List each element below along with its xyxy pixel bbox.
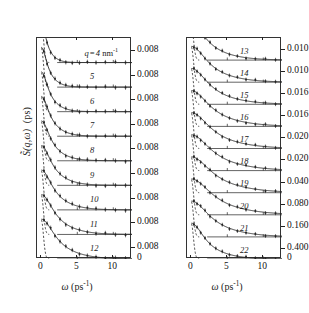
data-point-marker	[275, 212, 277, 214]
data-point-marker	[46, 42, 48, 44]
x-tick-label: 0	[180, 261, 200, 271]
data-point-marker	[255, 144, 257, 146]
curve-label-q-22: 22	[240, 245, 249, 255]
y-axis-tick	[131, 99, 135, 100]
data-point-marker	[46, 199, 48, 201]
data-point-marker	[229, 117, 231, 119]
data-point-marker	[229, 228, 231, 230]
curve-label-q-10: 10	[90, 194, 99, 204]
y-axis-tick	[131, 198, 135, 199]
data-point-marker	[215, 47, 217, 49]
data-point-marker	[229, 95, 231, 97]
data-point-marker	[71, 249, 73, 251]
data-point-marker	[65, 177, 67, 179]
y-tick-label: 0.008	[137, 167, 158, 177]
data-point-marker	[54, 167, 56, 169]
data-point-marker	[196, 71, 198, 73]
data-point-marker	[43, 98, 45, 100]
data-point-marker	[193, 156, 195, 158]
curve-label-q-20: 20	[240, 201, 249, 211]
data-point-marker	[255, 188, 257, 190]
y-axis-tick	[281, 93, 285, 94]
data-point-marker	[196, 48, 198, 50]
data-point-marker	[65, 155, 67, 157]
data-point-marker	[215, 196, 217, 198]
y-tick-label: 0.010	[287, 65, 308, 75]
data-point-marker	[245, 256, 247, 258]
data-point-marker	[43, 170, 45, 172]
data-point-marker	[196, 114, 198, 116]
curve-label-q-4: q = 4 nm-1	[84, 47, 118, 58]
spectrum-curve	[41, 218, 132, 259]
data-point-marker	[229, 139, 231, 141]
data-point-marker	[95, 208, 97, 210]
y-axis-tick	[131, 75, 135, 76]
data-point-marker	[237, 255, 239, 257]
data-point-marker	[59, 59, 61, 61]
data-point-marker	[209, 105, 211, 107]
model-fit-line	[191, 223, 282, 259]
resolution-function-dashed-line	[191, 47, 199, 82]
data-point-marker	[46, 84, 48, 86]
y-axis-tick	[281, 226, 285, 227]
data-point-marker	[50, 205, 52, 207]
data-point-marker	[215, 247, 217, 249]
spectrum-curve	[41, 168, 132, 212]
x-tick-label: 10	[102, 261, 122, 271]
data-point-marker	[265, 146, 267, 148]
resolution-function-dashed-line	[191, 158, 199, 193]
y-axis-label: S̃(q,ω) (ps)	[21, 62, 32, 202]
data-point-marker	[215, 175, 217, 177]
y-tick-label: 0.008	[137, 192, 158, 202]
x-tick-label: 5	[216, 261, 236, 271]
y-tick-label: 0.040	[287, 176, 308, 186]
y-axis-label-symbol: S̃	[21, 151, 32, 156]
data-point-marker	[215, 88, 217, 90]
data-point-marker	[229, 204, 231, 206]
left-panel-curves	[37, 38, 132, 259]
spectrum-curve	[191, 222, 282, 259]
data-point-marker	[193, 112, 195, 114]
x-tick-label: 10	[252, 261, 272, 271]
x-axis-label: ω (ps-1)	[212, 280, 243, 292]
data-point-marker	[204, 165, 206, 167]
data-point-marker	[204, 122, 206, 124]
resolution-function-dashed-line	[191, 136, 199, 171]
data-point-marker	[200, 205, 202, 207]
spectrum-curve	[41, 145, 132, 188]
data-point-marker	[265, 123, 267, 125]
data-point-marker	[71, 227, 73, 229]
y-tick-label: 0.010	[287, 43, 308, 53]
data-point-marker	[215, 220, 217, 222]
data-point-marker	[265, 212, 267, 214]
data-point-marker	[265, 167, 267, 169]
curve-label-q-21: 21	[240, 223, 249, 233]
data-point-marker	[215, 131, 217, 133]
x-axis-tick	[40, 255, 41, 258]
data-point-marker	[46, 106, 48, 108]
y-tick-label: 0.008	[137, 142, 158, 152]
data-point-marker	[46, 63, 48, 65]
data-point-marker	[71, 85, 73, 87]
y-tick-label: 0.008	[137, 93, 158, 103]
data-point-marker	[237, 206, 239, 208]
data-point-marker	[265, 58, 267, 60]
data-point-marker	[200, 161, 202, 163]
data-point-marker	[221, 251, 223, 253]
curve-label-q-5: 5	[90, 71, 94, 81]
y-axis-label-args: (q,ω)	[21, 129, 32, 151]
data-point-marker	[50, 159, 52, 161]
data-point-marker	[255, 233, 257, 235]
y-tick-label-zero: 0	[137, 252, 142, 262]
data-point-marker	[50, 138, 52, 140]
y-axis-tick	[281, 204, 285, 205]
data-point-marker	[65, 108, 67, 110]
data-point-marker	[237, 141, 239, 143]
top-axis-tick	[112, 37, 113, 40]
data-point-marker	[59, 104, 61, 106]
data-point-marker	[215, 68, 217, 70]
data-point-marker	[209, 216, 211, 218]
curve-label-q-17: 17	[240, 134, 249, 144]
y-axis-label-unit: (ps)	[21, 107, 32, 123]
data-point-marker	[204, 143, 206, 145]
